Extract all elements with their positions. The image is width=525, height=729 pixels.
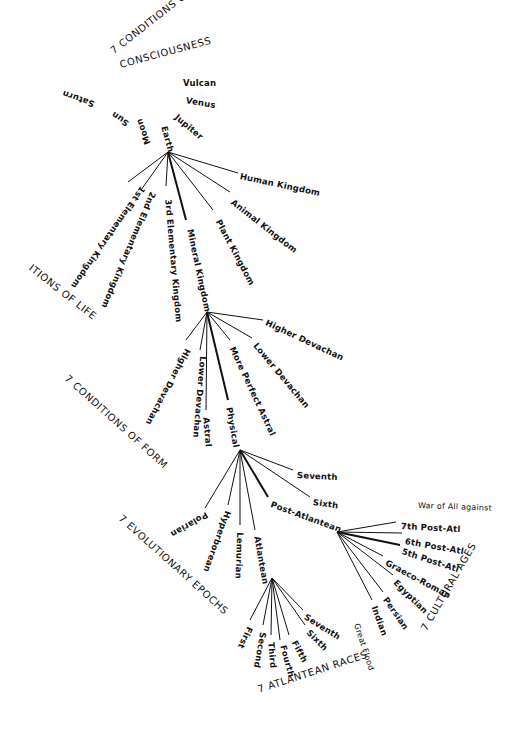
node-third-race: Third [267, 642, 278, 669]
node-lemurian: Lemurian [234, 532, 244, 579]
tree-lines [0, 0, 525, 729]
node-vulcan: Vulcan [183, 79, 216, 88]
node-seventh: Seventh [297, 471, 338, 482]
node-astral: Astral [202, 417, 213, 447]
